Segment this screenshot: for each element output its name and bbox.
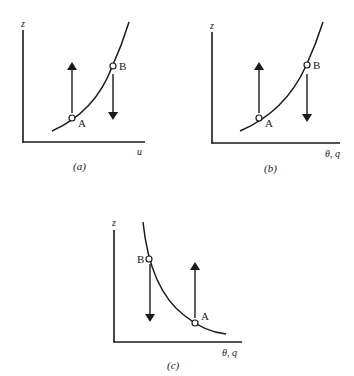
point-b-marker (110, 63, 116, 69)
point-a-label: A (265, 117, 273, 129)
point-b-marker (304, 62, 310, 68)
y-axis-label: z (209, 20, 214, 31)
point-a-marker (69, 115, 75, 121)
point-a-marker (256, 115, 262, 121)
point-a-marker (192, 320, 198, 326)
x-axis-label: θ, q (222, 347, 237, 358)
profile-curve (52, 22, 129, 131)
point-a-label: A (78, 117, 86, 129)
panel-caption: (c) (167, 359, 180, 372)
profile-curve (240, 22, 323, 131)
point-b-label: B (313, 59, 320, 71)
panel-b: z θ, q A B (b) (209, 20, 340, 175)
y-axis-label: z (20, 18, 25, 29)
panel-c: z θ, q B A (c) (111, 217, 242, 372)
panel-caption: (b) (264, 162, 277, 175)
point-b-marker (146, 256, 152, 262)
y-axis-label: z (111, 217, 116, 228)
profile-curve (143, 222, 226, 334)
x-axis-label: θ, q (325, 148, 340, 159)
point-b-label: B (137, 253, 144, 265)
point-b-label: B (119, 60, 126, 72)
panel-a: z u A B (a) (20, 18, 145, 173)
panel-caption: (a) (73, 160, 86, 173)
point-a-label: A (201, 310, 209, 322)
diagram-canvas: z u A B (a) z θ, q A B (b) z θ, q B (0, 0, 354, 376)
x-axis-label: u (137, 146, 142, 157)
